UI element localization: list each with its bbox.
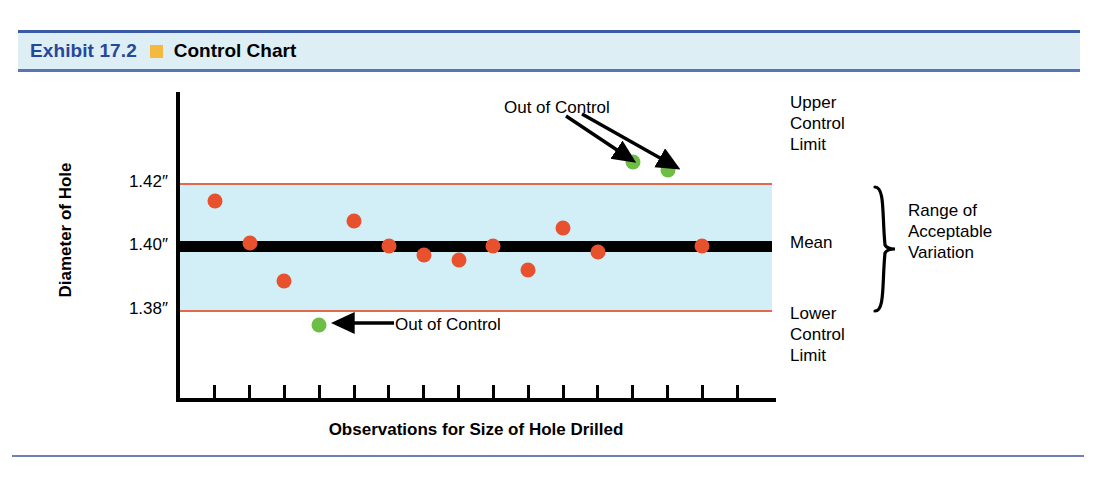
x-axis-tick [353, 385, 356, 399]
x-axis-tick [492, 385, 495, 399]
data-point-in-control [556, 221, 571, 236]
bottom-divider [12, 455, 1084, 457]
data-point-in-control [486, 238, 501, 253]
data-point-out-of-control [312, 318, 327, 333]
x-axis-tick [318, 385, 321, 399]
control-chart: 1.42″ 1.40″ 1.38″ Diameter of Hole Obser… [0, 72, 1099, 455]
x-axis-tick [596, 385, 599, 399]
y-axis-line [176, 92, 180, 402]
x-axis-tick [562, 385, 565, 399]
data-point-in-control [521, 262, 536, 277]
out-of-control-lower-label: Out of Control [395, 315, 501, 335]
exhibit-title: Control Chart [174, 40, 296, 62]
y-tick-label-142: 1.42″ [96, 172, 168, 192]
out-of-control-upper-arrows-icon [560, 112, 740, 182]
exhibit-header: Exhibit 17.2 Control Chart [18, 30, 1080, 72]
data-point-in-control [590, 245, 605, 260]
x-axis-tick [736, 385, 739, 399]
curly-brace-icon [872, 185, 898, 313]
range-of-acceptable-variation-label: Range of Acceptable Variation [908, 200, 992, 263]
y-axis-title: Diameter of Hole [56, 140, 76, 320]
data-point-in-control [277, 273, 292, 288]
y-tick-label-140: 1.40″ [96, 235, 168, 255]
y-tick-label-138: 1.38″ [96, 299, 168, 319]
x-axis-tick [283, 385, 286, 399]
data-point-in-control [242, 235, 257, 250]
mean-line [177, 241, 772, 252]
x-axis-tick [631, 385, 634, 399]
x-axis-tick [213, 385, 216, 399]
lower-control-limit-line [180, 310, 772, 312]
x-axis-tick [527, 385, 530, 399]
x-axis-tick [457, 385, 460, 399]
x-axis-tick [666, 385, 669, 399]
x-axis-tick [248, 385, 251, 399]
x-axis-tick [701, 385, 704, 399]
exhibit-number: Exhibit 17.2 [30, 40, 137, 62]
y-axis-tick-labels: 1.42″ 1.40″ 1.38″ [88, 72, 168, 402]
x-axis-tick [387, 385, 390, 399]
x-axis-line [176, 398, 776, 402]
exhibit-header-inner: Exhibit 17.2 Control Chart [18, 40, 296, 62]
data-point-in-control [451, 253, 466, 268]
data-point-in-control [207, 194, 222, 209]
data-point-in-control [416, 248, 431, 263]
out-of-control-lower-arrow-icon [330, 310, 400, 336]
orange-square-icon [150, 45, 163, 58]
upper-control-limit-label: Upper Control Limit [790, 92, 845, 155]
upper-control-limit-line [180, 183, 772, 185]
data-point-in-control [695, 238, 710, 253]
x-axis-title: Observations for Size of Hole Drilled [176, 420, 776, 440]
data-point-in-control [347, 213, 362, 228]
mean-label: Mean [790, 232, 833, 253]
x-axis-tick [422, 385, 425, 399]
lower-control-limit-label: Lower Control Limit [790, 303, 845, 366]
data-point-in-control [381, 238, 396, 253]
